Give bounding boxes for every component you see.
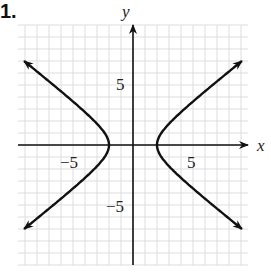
y-axis-label: y (120, 2, 130, 21)
y-tick-neg5: −5 (106, 197, 124, 216)
hyperbola-graph: 1. x y −5 5 5 −5 (0, 0, 271, 273)
x-tick-neg5: −5 (60, 153, 78, 172)
y-tick-pos5: 5 (116, 75, 125, 94)
x-axis-label: x (256, 136, 265, 155)
x-tick-pos5: 5 (187, 153, 196, 172)
problem-number: 1. (0, 0, 17, 22)
